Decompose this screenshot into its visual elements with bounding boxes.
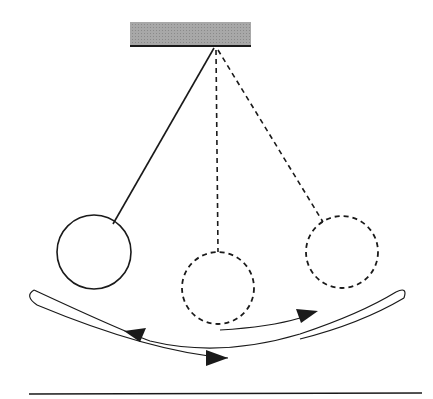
ground-line (29, 393, 422, 394)
string-center-dashed (216, 50, 218, 252)
pendulum-right-dashed (218, 50, 378, 288)
arrow-right-lower-icon (206, 350, 228, 366)
fixed-support (130, 22, 251, 46)
pendulum-diagram (0, 0, 433, 399)
string-solid (113, 48, 214, 224)
string-right-dashed (218, 50, 323, 222)
arrow-right-upper-icon (296, 309, 318, 323)
bob-right (306, 216, 378, 288)
bob-center (182, 252, 254, 324)
pendulum-left-solid (57, 48, 214, 289)
bob-left (57, 215, 131, 289)
